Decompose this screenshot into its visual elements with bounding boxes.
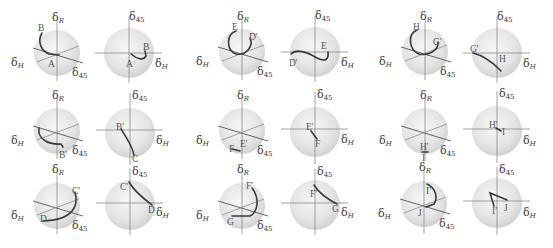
axis-label-45: δ45 bbox=[439, 217, 455, 231]
axis-label-45: δ45 bbox=[132, 165, 148, 179]
point-label-start: H' bbox=[489, 120, 498, 130]
axis-label-r: δR bbox=[237, 10, 250, 24]
point-label-start: C' bbox=[120, 182, 128, 192]
axis-label-h: δH bbox=[196, 209, 210, 223]
axis-label-h: δH bbox=[523, 57, 537, 71]
axis-label-r: δR bbox=[52, 89, 65, 103]
point-label-end: H bbox=[499, 54, 506, 64]
axis-label-45: δ45 bbox=[497, 10, 513, 24]
poincare-sphere-figure: B A δR δH δ45 A B δ45 δH E D' δR δH δ45 … bbox=[0, 0, 553, 248]
axis-label-h: δH bbox=[523, 134, 537, 148]
point-label-end: F bbox=[315, 139, 320, 149]
point-label-start: E' bbox=[306, 122, 314, 132]
axis-label-45: δ45 bbox=[72, 66, 88, 80]
point-label-start: C' bbox=[72, 186, 80, 196]
point-label-start: I' bbox=[426, 186, 431, 196]
panel-r1c0-sphere3d: B' δR δH δ45 bbox=[11, 89, 88, 160]
axis-label-h: δH bbox=[156, 134, 170, 148]
axis-label-45: δ45 bbox=[257, 65, 273, 79]
panel-r0c2-sphere3d: H G' δR δH δ45 bbox=[379, 10, 456, 80]
axis-label-h: δH bbox=[341, 133, 355, 147]
point-label-start: G' bbox=[470, 44, 479, 54]
point-label-end: D bbox=[40, 214, 47, 224]
point-label-start: F' bbox=[310, 189, 317, 199]
axis-label-45: δ45 bbox=[257, 144, 273, 158]
axis-label-h: δH bbox=[379, 55, 393, 69]
axis-label-h: δH bbox=[156, 206, 170, 220]
axis-label-r: δR bbox=[237, 89, 250, 103]
point-label-end: B bbox=[38, 23, 44, 33]
axis-label-h: δH bbox=[341, 56, 355, 70]
axis-label-h: δH bbox=[11, 134, 25, 148]
point-label-start: A bbox=[126, 59, 133, 69]
panel-r2c1-proj2d: F' G δ45 δH bbox=[281, 165, 355, 235]
point-label-end: J bbox=[504, 203, 508, 213]
point-label-end: J bbox=[418, 208, 422, 218]
point-label-end: D bbox=[148, 205, 155, 215]
point-label-start: B' bbox=[59, 150, 67, 160]
panel-r1c1-proj2d: E' F δ45 δH bbox=[281, 88, 355, 164]
panel-r1c2-sphere3d: H' I δR δH δ45 bbox=[379, 89, 456, 163]
axis-label-r: δR bbox=[419, 161, 432, 175]
axis-label-45: δ45 bbox=[315, 9, 331, 23]
point-label-start: I' bbox=[492, 206, 497, 216]
panel-r0c1-sphere3d: E D' δR δH δ45 bbox=[196, 10, 273, 80]
axis-label-45: δ45 bbox=[257, 219, 273, 233]
axis-label-45: δ45 bbox=[440, 144, 456, 158]
axis-label-45: δ45 bbox=[129, 10, 145, 24]
axis-label-r: δR bbox=[420, 10, 433, 24]
axis-label-h: δH bbox=[11, 209, 25, 223]
panel-r1c0-proj2d: B' C δ45 δH bbox=[96, 89, 170, 165]
panel-r0c0-proj2d: A B δ45 δH bbox=[95, 10, 169, 83]
point-label-start: F' bbox=[246, 181, 253, 191]
axis-label-h: δH bbox=[378, 207, 392, 221]
axis-label-45: δ45 bbox=[132, 89, 148, 103]
point-label-end: H bbox=[413, 22, 420, 32]
panel-r2c1-sphere3d: F' G δR δH δ45 bbox=[196, 163, 273, 234]
point-label-end: E bbox=[232, 22, 238, 32]
panel-r2c0-sphere3d: C' D δR δH δ45 bbox=[11, 163, 88, 234]
axis-label-45: δ45 bbox=[499, 87, 515, 101]
point-label-end: I bbox=[502, 127, 505, 137]
axis-label-45: δ45 bbox=[72, 219, 88, 233]
point-label-end: C bbox=[132, 154, 138, 164]
axis-label-h: δH bbox=[196, 55, 210, 69]
point-label-start: E' bbox=[240, 139, 248, 149]
point-label-end: G bbox=[332, 204, 339, 214]
axis-label-h: δH bbox=[523, 206, 537, 220]
axis-label-h: δH bbox=[379, 134, 393, 148]
axis-label-45: δ45 bbox=[440, 65, 456, 79]
axis-label-45: δ45 bbox=[499, 163, 515, 177]
point-label-start: A bbox=[48, 59, 55, 69]
axis-label-45: δ45 bbox=[72, 144, 88, 158]
axis-label-r: δR bbox=[237, 163, 250, 177]
axis-label-h: δH bbox=[341, 206, 355, 220]
panel-r0c1-proj2d: D' E δ45 δH bbox=[281, 9, 355, 82]
panel-r0c2-proj2d: G' H δ45 δH bbox=[463, 10, 537, 83]
panel-r2c2-sphere3d: I' J δR δH δ45 bbox=[378, 161, 455, 234]
axis-label-r: δR bbox=[52, 11, 65, 25]
axis-label-45: δ45 bbox=[317, 165, 333, 179]
point-label-end: G bbox=[227, 217, 234, 227]
panel-r2c0-proj2d: C' D δ45 δH bbox=[96, 165, 170, 235]
point-label-end: E bbox=[321, 41, 327, 51]
panel-r1c2-proj2d: H' I δ45 δH bbox=[463, 87, 537, 163]
point-label-start: H' bbox=[420, 142, 429, 152]
point-label-end: B bbox=[143, 42, 149, 52]
axis-label-r: δR bbox=[420, 89, 433, 103]
axis-label-45: δ45 bbox=[317, 88, 333, 102]
point-label-start: G' bbox=[433, 37, 442, 47]
point-label-start: D' bbox=[289, 58, 298, 68]
axis-label-h: δH bbox=[11, 56, 25, 70]
point-label-start: D' bbox=[249, 32, 258, 42]
axis-label-h: δH bbox=[196, 134, 210, 148]
panel-r0c0-sphere3d: B A δR δH δ45 bbox=[11, 11, 88, 81]
panel-r2c2-proj2d: I' J δ45 δH bbox=[463, 163, 537, 235]
axis-label-h: δH bbox=[155, 57, 169, 71]
point-label-start: B' bbox=[116, 122, 124, 132]
point-label-end: F bbox=[229, 144, 234, 154]
axis-label-r: δR bbox=[52, 163, 65, 177]
panel-r1c1-sphere3d: F E' δR δH δ45 bbox=[196, 89, 273, 159]
